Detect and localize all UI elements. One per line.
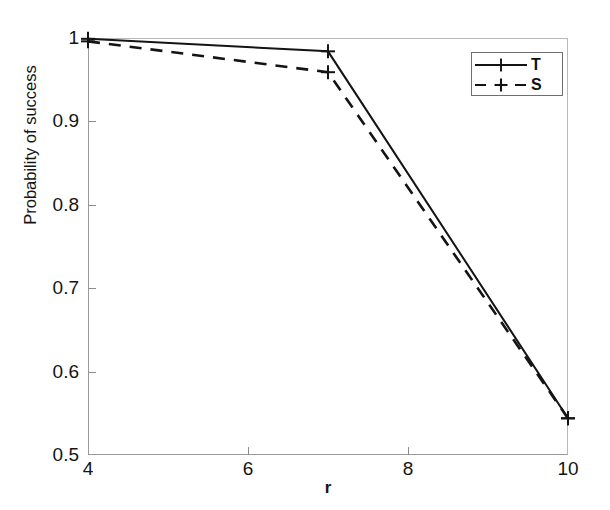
legend-label-s: S — [531, 77, 542, 93]
data-point-marker-t — [321, 44, 335, 58]
y-axis-label: Probability of success — [21, 35, 39, 255]
legend-swatch-dashed — [472, 75, 530, 95]
legend-entry-s: S — [472, 74, 564, 95]
legend-entry-t: T — [472, 54, 564, 75]
data-point-marker-s — [81, 34, 95, 48]
legend-label-t: T — [531, 57, 541, 73]
series-line-s — [88, 41, 568, 418]
data-point-marker-s — [321, 65, 335, 79]
x-axis-label: r — [298, 478, 358, 498]
chart-legend: T S — [471, 52, 563, 96]
legend-swatch-solid — [472, 55, 530, 75]
chart-figure: 0.50.60.70.80.91 46810 Probability of su… — [0, 0, 610, 510]
